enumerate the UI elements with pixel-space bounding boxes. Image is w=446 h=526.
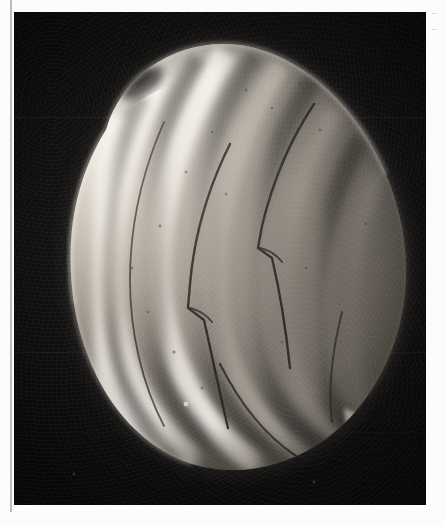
register-mark-upper-icon [432, 13, 437, 14]
page-gutter-rule [10, 0, 12, 512]
plate-page: pollen-grain scanning electron micrograp… [0, 0, 446, 526]
register-mark-lower-icon [432, 29, 437, 30]
field-speck [72, 472, 75, 475]
field-speck [313, 481, 316, 484]
specimen-surface-description: longitudinally ridged with deep furrows … [0, 0, 1, 1]
plate-caption [14, 508, 426, 524]
pollen-grain-specimen [14, 12, 426, 505]
debris-particle [184, 402, 189, 407]
grain-body [14, 12, 426, 505]
scale-bar-label [0, 0, 1, 1]
specimen-name: pollen-grain [0, 0, 1, 1]
specimen-imaging-mode: scanning electron micrograph [0, 0, 1, 1]
micrograph-plate [14, 12, 426, 505]
